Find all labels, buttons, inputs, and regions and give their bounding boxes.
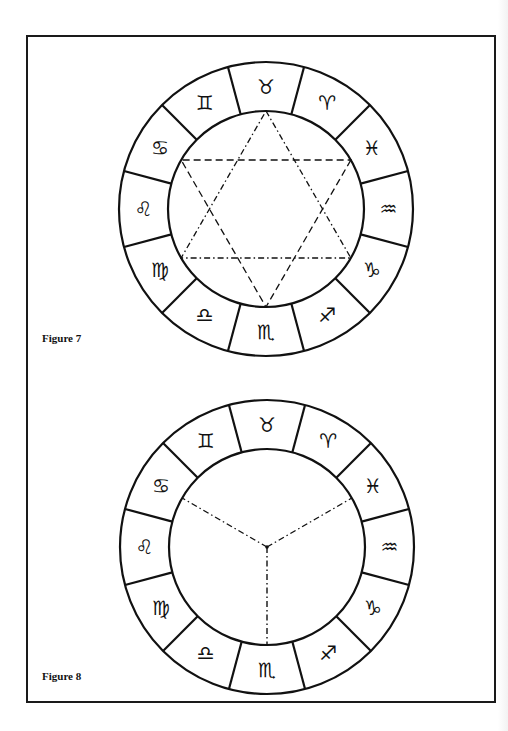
house-divider bbox=[292, 642, 305, 689]
sign-gemini-icon: ♊︎ bbox=[197, 429, 215, 453]
inner-ring bbox=[168, 111, 364, 307]
house-divider bbox=[229, 642, 242, 689]
sign-aquarius-icon: ♒︎ bbox=[380, 197, 398, 221]
sign-taurus-icon: ♉︎ bbox=[257, 75, 275, 99]
house-divider bbox=[124, 171, 171, 184]
sign-capricorn-icon: ♑︎ bbox=[364, 596, 382, 620]
dashed-radius bbox=[267, 498, 352, 547]
house-divider bbox=[291, 67, 304, 114]
sign-sagittarius-icon: ♐︎ bbox=[318, 303, 336, 327]
sign-pisces-icon: ♓︎ bbox=[364, 474, 382, 498]
figure-8-label: Figure 8 bbox=[42, 670, 81, 682]
sign-cancer-icon: ♋︎ bbox=[151, 136, 169, 160]
house-divider bbox=[228, 304, 241, 351]
house-divider bbox=[124, 234, 171, 247]
house-divider bbox=[361, 171, 408, 184]
house-divider bbox=[335, 278, 370, 313]
sign-taurus-icon: ♉︎ bbox=[258, 413, 276, 437]
house-divider bbox=[163, 616, 198, 651]
house-divider bbox=[291, 304, 304, 351]
house-divider bbox=[361, 234, 408, 247]
sign-virgo-icon: ♍︎ bbox=[151, 258, 169, 282]
sign-sagittarius-icon: ♐︎ bbox=[319, 641, 337, 665]
sign-libra-icon: ♎︎ bbox=[196, 303, 214, 327]
triangle-upward bbox=[181, 111, 351, 258]
house-divider bbox=[229, 405, 242, 452]
sign-scorpio-icon: ♏︎ bbox=[258, 658, 276, 682]
house-divider bbox=[362, 572, 409, 585]
house-divider bbox=[362, 509, 409, 522]
house-divider bbox=[228, 67, 241, 114]
house-divider bbox=[125, 572, 172, 585]
house-divider bbox=[162, 278, 197, 313]
center-point bbox=[265, 545, 269, 549]
sign-aries-icon: ♈︎ bbox=[319, 429, 337, 453]
house-divider bbox=[162, 105, 197, 140]
house-divider bbox=[336, 443, 371, 478]
sign-gemini-icon: ♊︎ bbox=[196, 91, 214, 115]
zodiac-diagrams: ♉︎♈︎♓︎♒︎♑︎♐︎♏︎♎︎♍︎♌︎♋︎♊︎ ♉︎♈︎♓︎♒︎♑︎♐︎♏︎♎… bbox=[0, 0, 508, 731]
sign-scorpio-icon: ♏︎ bbox=[257, 320, 275, 344]
sign-capricorn-icon: ♑︎ bbox=[363, 258, 381, 282]
sign-pisces-icon: ♓︎ bbox=[363, 136, 381, 160]
house-divider bbox=[292, 405, 305, 452]
sign-cancer-icon: ♋︎ bbox=[152, 474, 170, 498]
figure-8-wheel: ♉︎♈︎♓︎♒︎♑︎♐︎♏︎♎︎♍︎♌︎♋︎♊︎ bbox=[120, 400, 414, 694]
sign-libra-icon: ♎︎ bbox=[197, 641, 215, 665]
dashed-radius bbox=[182, 498, 267, 547]
sign-virgo-icon: ♍︎ bbox=[152, 596, 170, 620]
figure-7-wheel: ♉︎♈︎♓︎♒︎♑︎♐︎♏︎♎︎♍︎♌︎♋︎♊︎ bbox=[119, 62, 413, 356]
sign-leo-icon: ♌︎ bbox=[136, 535, 154, 559]
house-divider bbox=[163, 443, 198, 478]
house-divider bbox=[335, 105, 370, 140]
sign-leo-icon: ♌︎ bbox=[135, 197, 153, 221]
figure-7-label: Figure 7 bbox=[42, 332, 81, 344]
sign-aquarius-icon: ♒︎ bbox=[381, 535, 399, 559]
sign-aries-icon: ♈︎ bbox=[318, 91, 336, 115]
house-divider bbox=[125, 509, 172, 522]
house-divider bbox=[336, 616, 371, 651]
triangle-downward bbox=[181, 160, 351, 307]
